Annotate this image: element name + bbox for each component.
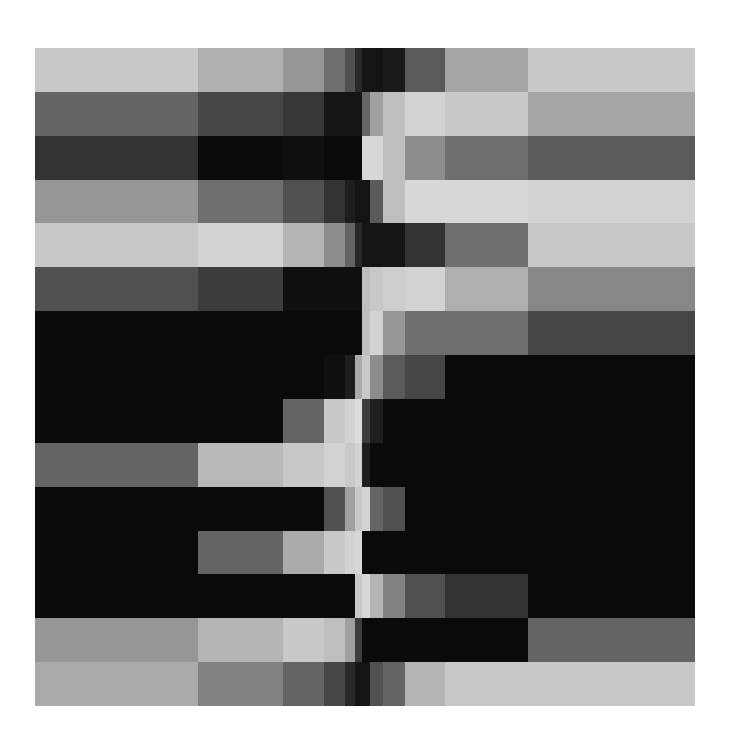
heatmap-cell-r8-c8 <box>370 355 383 399</box>
heatmap-cell-r4-c8 <box>370 180 383 223</box>
heatmap-cell-r14-c4 <box>324 618 345 662</box>
heatmap-cell-r5-c11 <box>445 223 528 267</box>
heatmap-cell-r2-c12 <box>528 92 695 136</box>
heatmap-cell-r3-c1 <box>35 136 198 180</box>
heatmap-cell-r3-c11 <box>445 136 528 180</box>
heatmap-cell-r13-c12 <box>528 574 695 618</box>
heatmap-cell-r3-c8 <box>370 136 383 180</box>
heatmap-cell-r14-c5 <box>345 618 355 662</box>
heatmap-cell-r9-c2 <box>198 399 283 443</box>
heatmap-cell-r8-c7 <box>362 355 370 399</box>
heatmap-cell-r9-c9 <box>383 399 405 443</box>
heatmap-cell-r7-c6 <box>355 311 362 355</box>
heatmap-cell-r9-c8 <box>370 399 383 443</box>
heatmap-cell-r1-c5 <box>345 48 355 92</box>
heatmap-cell-r4-c6 <box>355 180 362 223</box>
heatmap-cell-r12-c4 <box>324 531 345 574</box>
heatmap-cell-r1-c10 <box>405 48 445 92</box>
heatmap-cell-r1-c3 <box>283 48 324 92</box>
heatmap-cell-r5-c1 <box>35 223 198 267</box>
heatmap-cell-r14-c9 <box>383 618 405 662</box>
heatmap-cell-r11-c10 <box>405 487 445 531</box>
heatmap-cell-r12-c10 <box>405 531 445 574</box>
heatmap-cell-r11-c7 <box>362 487 370 531</box>
heatmap-grid <box>35 48 695 706</box>
heatmap-cell-r4-c4 <box>324 180 345 223</box>
heatmap-cell-r3-c10 <box>405 136 445 180</box>
heatmap-cell-r4-c2 <box>198 180 283 223</box>
heatmap-cell-r2-c3 <box>283 92 324 136</box>
heatmap-cell-r12-c11 <box>445 531 528 574</box>
heatmap-cell-r11-c2 <box>198 487 283 531</box>
heatmap-cell-r7-c3 <box>283 311 324 355</box>
heatmap-cell-r12-c12 <box>528 531 695 574</box>
heatmap-cell-r5-c9 <box>383 223 405 267</box>
heatmap-cell-r13-c3 <box>283 574 324 618</box>
heatmap-cell-r1-c4 <box>324 48 345 92</box>
heatmap-cell-r10-c11 <box>445 443 528 487</box>
heatmap-cell-r1-c12 <box>528 48 695 92</box>
heatmap-cell-r15-c12 <box>528 662 695 706</box>
heatmap-cell-r2-c7 <box>362 92 370 136</box>
heatmap-cell-r4-c5 <box>345 180 355 223</box>
heatmap-cell-r10-c6 <box>355 443 362 487</box>
heatmap-cell-r1-c1 <box>35 48 198 92</box>
heatmap-cell-r13-c9 <box>383 574 405 618</box>
heatmap-cell-r9-c12 <box>528 399 695 443</box>
heatmap-cell-r5-c3 <box>283 223 324 267</box>
heatmap-cell-r9-c3 <box>283 399 324 443</box>
heatmap-cell-r3-c9 <box>383 136 405 180</box>
heatmap-cell-r14-c6 <box>355 618 362 662</box>
heatmap-cell-r7-c8 <box>370 311 383 355</box>
heatmap-cell-r15-c1 <box>35 662 198 706</box>
heatmap-cell-r1-c9 <box>383 48 405 92</box>
heatmap-cell-r7-c10 <box>405 311 445 355</box>
heatmap-cell-r1-c8 <box>370 48 383 92</box>
heatmap-cell-r11-c5 <box>345 487 355 531</box>
heatmap-cell-r10-c8 <box>370 443 383 487</box>
heatmap-cell-r2-c5 <box>345 92 355 136</box>
heatmap-cell-r12-c5 <box>345 531 355 574</box>
heatmap-cell-r11-c1 <box>35 487 198 531</box>
heatmap-cell-r2-c11 <box>445 92 528 136</box>
heatmap-cell-r3-c3 <box>283 136 324 180</box>
heatmap-cell-r8-c1 <box>35 355 198 399</box>
heatmap-cell-r6-c7 <box>362 267 370 311</box>
heatmap-cell-r5-c5 <box>345 223 355 267</box>
heatmap-cell-r4-c7 <box>362 180 370 223</box>
heatmap-cell-r11-c3 <box>283 487 324 531</box>
heatmap-cell-r14-c12 <box>528 618 695 662</box>
heatmap-cell-r1-c2 <box>198 48 283 92</box>
heatmap-cell-r13-c1 <box>35 574 198 618</box>
heatmap-cell-r12-c7 <box>362 531 370 574</box>
heatmap-cell-r15-c6 <box>355 662 362 706</box>
heatmap-cell-r7-c9 <box>383 311 405 355</box>
heatmap-cell-r13-c2 <box>198 574 283 618</box>
heatmap-cell-r8-c4 <box>324 355 345 399</box>
heatmap-cell-r6-c5 <box>345 267 355 311</box>
heatmap-cell-r12-c9 <box>383 531 405 574</box>
heatmap-cell-r4-c3 <box>283 180 324 223</box>
heatmap-cell-r15-c11 <box>445 662 528 706</box>
heatmap-cell-r5-c6 <box>355 223 362 267</box>
heatmap-cell-r6-c4 <box>324 267 345 311</box>
heatmap-cell-r9-c6 <box>355 399 362 443</box>
heatmap-cell-r8-c11 <box>445 355 528 399</box>
heatmap-cell-r1-c7 <box>362 48 370 92</box>
heatmap-cell-r9-c4 <box>324 399 345 443</box>
heatmap-cell-r10-c4 <box>324 443 345 487</box>
heatmap-cell-r8-c9 <box>383 355 405 399</box>
heatmap-cell-r9-c10 <box>405 399 445 443</box>
heatmap-cell-r11-c4 <box>324 487 345 531</box>
heatmap-cell-r15-c2 <box>198 662 283 706</box>
heatmap-cell-r14-c3 <box>283 618 324 662</box>
heatmap-cell-r12-c2 <box>198 531 283 574</box>
heatmap-cell-r10-c5 <box>345 443 355 487</box>
heatmap-cell-r8-c6 <box>355 355 362 399</box>
heatmap-cell-r10-c9 <box>383 443 405 487</box>
heatmap-cell-r15-c10 <box>405 662 445 706</box>
heatmap-cell-r14-c10 <box>405 618 445 662</box>
heatmap-cell-r4-c10 <box>405 180 445 223</box>
heatmap-cell-r2-c1 <box>35 92 198 136</box>
heatmap-cell-r6-c12 <box>528 267 695 311</box>
